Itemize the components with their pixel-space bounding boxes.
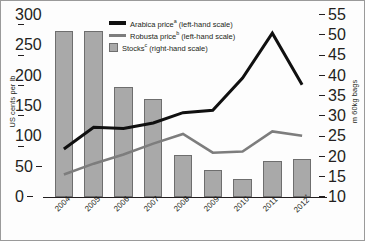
y-tick-right-40: 40 <box>319 71 359 81</box>
arabica-line-swatch-icon <box>109 21 126 24</box>
chart-legend: Arabica pricea (left-hand scale) Robusta… <box>109 17 279 53</box>
y-tick-left-300: 300 <box>15 10 49 20</box>
robusta-price-line <box>64 131 302 174</box>
y-tick-right-20: 20 <box>319 152 359 162</box>
y-tick-right-45: 45 <box>319 50 359 60</box>
y-tick-right-25: 25 <box>319 131 359 141</box>
legend-label-robusta: Robusta priceb (left-hand scale) <box>130 30 235 41</box>
y-tick-right-15: 15 <box>319 172 359 182</box>
y-tick-right-35: 35 <box>319 91 359 101</box>
y-tick-left-250: 250 <box>15 40 49 50</box>
coffee-price-stocks-chart: US cents per lb m 60kg bags 050100150200… <box>0 0 365 241</box>
y-tick-right-30: 30 <box>319 111 359 121</box>
robusta-line-swatch-icon <box>109 34 126 37</box>
legend-item-robusta: Robusta priceb (left-hand scale) <box>109 29 279 41</box>
stocks-bar-swatch-icon <box>109 43 118 52</box>
y-tick-left-150: 150 <box>15 101 49 111</box>
y-axis-right-ticks: 10152025303540455055 <box>319 1 359 241</box>
y-axis-left-ticks: 050100150200250300 <box>15 1 49 241</box>
legend-label-arabica: Arabica pricea (left-hand scale) <box>130 18 233 29</box>
y-tick-left-50: 50 <box>15 162 49 172</box>
y-tick-right-55: 55 <box>319 10 359 20</box>
legend-item-stocks: Stocksc (right-hand scale) <box>109 41 279 53</box>
y-tick-right-50: 50 <box>319 30 359 40</box>
y-tick-left-200: 200 <box>15 71 49 81</box>
x-axis-labels: 200420052006200720082009201020112012* <box>49 199 317 241</box>
y-tick-left-100: 100 <box>15 131 49 141</box>
legend-label-stocks: Stocksc (right-hand scale) <box>122 42 208 53</box>
legend-item-arabica: Arabica pricea (left-hand scale) <box>109 17 279 29</box>
